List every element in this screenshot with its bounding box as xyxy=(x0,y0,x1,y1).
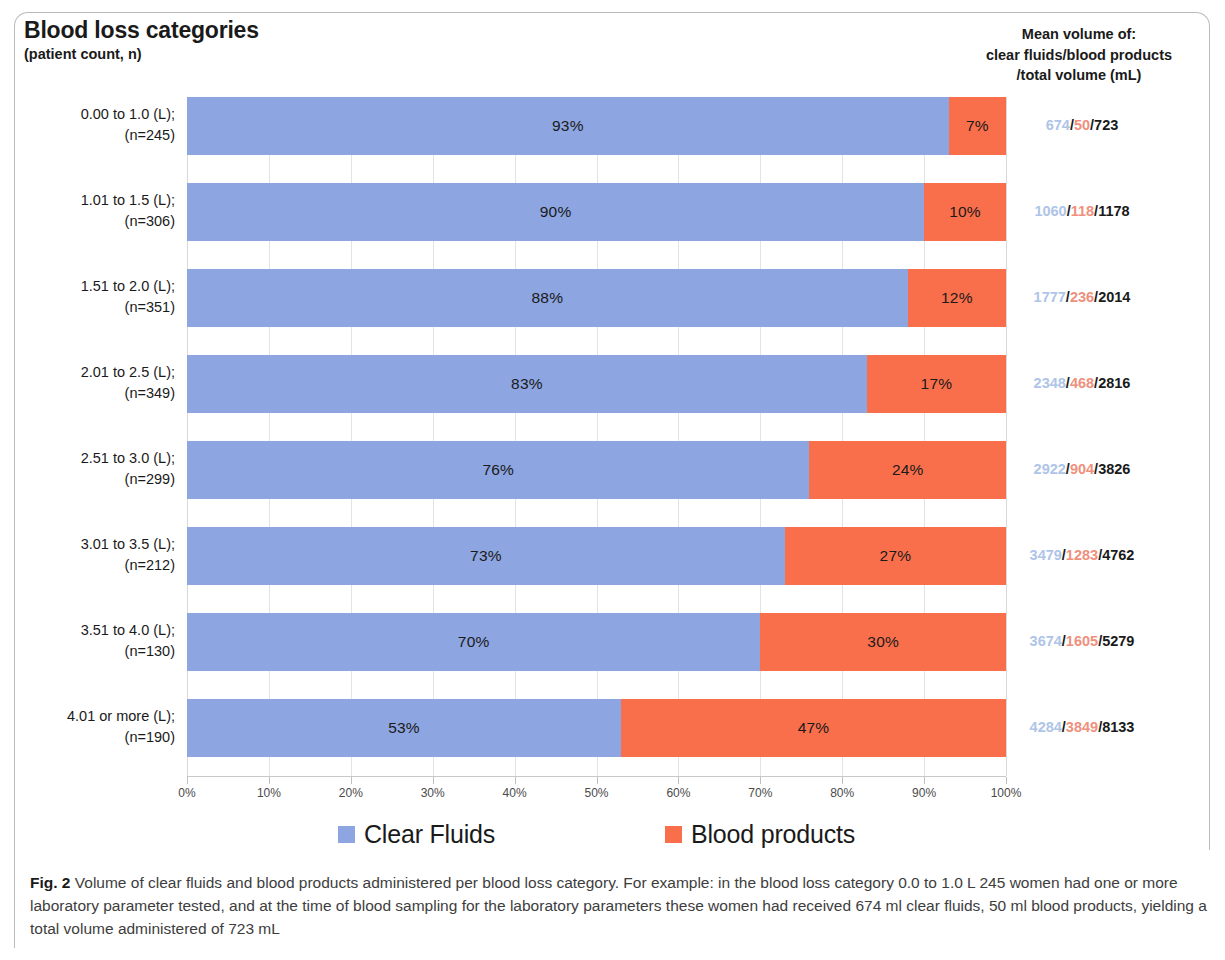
bar-row[interactable]: 83%17% xyxy=(187,355,1006,413)
bar-segment-clear-fluids[interactable]: 76% xyxy=(187,441,809,499)
category-label: 1.51 to 2.0 (L);(n=351) xyxy=(10,276,175,318)
x-axis-tick-mark xyxy=(842,777,843,784)
x-axis-tick-mark xyxy=(187,777,188,784)
category-label-range: 4.01 or more (L); xyxy=(10,706,175,727)
bar-segment-clear-fluids[interactable]: 83% xyxy=(187,355,867,413)
x-axis-tick-label: 60% xyxy=(666,786,690,800)
bar-segment-clear-fluids[interactable]: 93% xyxy=(187,97,949,155)
mean-volume-total: 2014 xyxy=(1098,289,1130,305)
mean-volume-label: 3674/1605/5279 xyxy=(957,633,1207,649)
mean-volume-blood-products: 50 xyxy=(1074,117,1090,133)
x-axis-tick-label: 80% xyxy=(830,786,854,800)
mean-volume-label: 674/50/723 xyxy=(957,117,1207,133)
category-label-count: (n=190) xyxy=(10,727,175,748)
mean-volume-label: 3479/1283/4762 xyxy=(957,547,1207,563)
x-axis-tick-mark xyxy=(924,777,925,784)
mean-volume-total: 8133 xyxy=(1102,719,1134,735)
mean-volume-clear-fluids: 2922 xyxy=(1034,461,1066,477)
mean-volume-blood-products: 3849 xyxy=(1066,719,1098,735)
mean-volume-total: 1178 xyxy=(1098,203,1129,219)
bar-segment-label-clear-fluids: 90% xyxy=(540,203,572,221)
category-label: 4.01 or more (L);(n=190) xyxy=(10,706,175,748)
bar-segment-clear-fluids[interactable]: 90% xyxy=(187,183,924,241)
bar-segment-label-blood-products: 24% xyxy=(892,461,924,479)
bar-segment-clear-fluids[interactable]: 70% xyxy=(187,613,760,671)
chart-legend: Clear FluidsBlood products xyxy=(187,820,1006,849)
category-label: 2.51 to 3.0 (L);(n=299) xyxy=(10,448,175,490)
category-label-range: 3.51 to 4.0 (L); xyxy=(10,620,175,641)
bar-segment-label-clear-fluids: 53% xyxy=(388,719,420,737)
bar-segment-label-blood-products: 27% xyxy=(880,547,912,565)
mean-volume-total: 4762 xyxy=(1102,547,1134,563)
mean-volume-header-line2: clear fluids/blood products xyxy=(949,45,1209,66)
bar-row[interactable]: 73%27% xyxy=(187,527,1006,585)
figure-caption-text: Volume of clear fluids and blood product… xyxy=(30,874,1207,937)
bar-segment-clear-fluids[interactable]: 73% xyxy=(187,527,785,585)
mean-volume-blood-products: 118 xyxy=(1071,203,1094,219)
bar-segment-label-blood-products: 30% xyxy=(867,633,899,651)
bar-segment-label-clear-fluids: 70% xyxy=(458,633,490,651)
page-title: Blood loss categories xyxy=(24,18,494,44)
figure-caption: Fig. 2 Volume of clear fluids and blood … xyxy=(30,872,1210,941)
mean-volume-clear-fluids: 3674 xyxy=(1030,633,1062,649)
category-label: 2.01 to 2.5 (L);(n=349) xyxy=(10,362,175,404)
mean-volume-total: 2816 xyxy=(1098,375,1130,391)
mean-volume-clear-fluids: 4284 xyxy=(1030,719,1062,735)
bar-row[interactable]: 76%24% xyxy=(187,441,1006,499)
blood-products-swatch xyxy=(665,826,682,843)
x-axis-tick-mark xyxy=(678,777,679,784)
x-axis-tick-mark xyxy=(760,777,761,784)
category-label-range: 0.00 to 1.0 (L); xyxy=(10,104,175,125)
mean-volume-label: 2922/904/3826 xyxy=(957,461,1207,477)
bar-row[interactable]: 70%30% xyxy=(187,613,1006,671)
legend-item[interactable]: Blood products xyxy=(665,820,855,849)
x-axis-tick-mark xyxy=(351,777,352,784)
x-axis-tick-mark xyxy=(269,777,270,784)
mean-volume-label: 2348/468/2816 xyxy=(957,375,1207,391)
x-axis-tick-label: 100% xyxy=(991,786,1022,800)
mean-volume-total: 3826 xyxy=(1098,461,1130,477)
bar-row[interactable]: 90%10% xyxy=(187,183,1006,241)
bar-segment-label-clear-fluids: 73% xyxy=(470,547,502,565)
mean-volume-blood-products: 904 xyxy=(1070,461,1094,477)
x-axis-tick-label: 30% xyxy=(421,786,445,800)
caption-left-rule xyxy=(14,848,15,948)
bar-row[interactable]: 53%47% xyxy=(187,699,1006,757)
x-axis-tick-label: 0% xyxy=(178,786,195,800)
x-axis-tick-mark xyxy=(1006,777,1007,784)
mean-volume-clear-fluids: 674 xyxy=(1046,117,1070,133)
category-label-count: (n=351) xyxy=(10,297,175,318)
mean-volume-header-line3: /total volume (mL) xyxy=(949,65,1209,86)
category-label-range: 1.01 to 1.5 (L); xyxy=(10,190,175,211)
bar-segment-blood-products[interactable]: 47% xyxy=(621,699,1006,757)
mean-volume-blood-products: 1605 xyxy=(1066,633,1098,649)
bar-row[interactable]: 88%12% xyxy=(187,269,1006,327)
mean-volume-blood-products: 468 xyxy=(1070,375,1094,391)
mean-volume-total: 723 xyxy=(1094,117,1118,133)
x-axis-tick-label: 10% xyxy=(257,786,281,800)
bar-segment-clear-fluids[interactable]: 88% xyxy=(187,269,908,327)
mean-volume-header: Mean volume of: clear fluids/blood produ… xyxy=(949,24,1209,86)
bar-segment-label-blood-products: 47% xyxy=(798,719,830,737)
category-label-count: (n=130) xyxy=(10,641,175,662)
category-label: 3.01 to 3.5 (L);(n=212) xyxy=(10,534,175,576)
chart-plot-area: 93%7%90%10%88%12%83%17%76%24%73%27%70%30… xyxy=(187,97,1006,776)
bar-segment-clear-fluids[interactable]: 53% xyxy=(187,699,621,757)
x-axis-tick-mark xyxy=(515,777,516,784)
legend-item[interactable]: Clear Fluids xyxy=(338,820,495,849)
category-label: 3.51 to 4.0 (L);(n=130) xyxy=(10,620,175,662)
category-label-range: 1.51 to 2.0 (L); xyxy=(10,276,175,297)
bar-row[interactable]: 93%7% xyxy=(187,97,1006,155)
mean-volume-clear-fluids: 2348 xyxy=(1034,375,1066,391)
x-axis-tick-mark xyxy=(597,777,598,784)
category-label-range: 3.01 to 3.5 (L); xyxy=(10,534,175,555)
bar-segment-label-blood-products: 17% xyxy=(921,375,953,393)
mean-volume-label: 1777/236/2014 xyxy=(957,289,1207,305)
x-axis-tick-label: 40% xyxy=(503,786,527,800)
category-label: 0.00 to 1.0 (L);(n=245) xyxy=(10,104,175,146)
chart-title-block: Blood loss categories (patient count, n) xyxy=(24,18,494,62)
category-label-range: 2.01 to 2.5 (L); xyxy=(10,362,175,383)
legend-label: Clear Fluids xyxy=(364,820,495,849)
mean-volume-blood-products: 236 xyxy=(1070,289,1094,305)
mean-volume-clear-fluids: 1060 xyxy=(1034,203,1066,219)
